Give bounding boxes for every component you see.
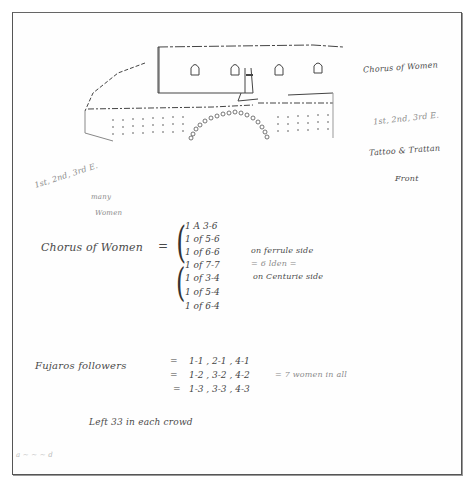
- sketch-label-front: Front: [395, 174, 419, 183]
- followers-eq: =: [173, 384, 181, 394]
- stage-sketch: [13, 13, 461, 213]
- chorus-heading: Chorus of Women: [41, 241, 143, 254]
- followers-heading: Fujaros followers: [35, 360, 126, 371]
- chorus-row: 1 of 6-6: [185, 247, 220, 257]
- chorus-row: 1 A 3-6: [185, 221, 217, 231]
- followers-note: = 7 women in all: [275, 370, 347, 379]
- followers-line: 1-1 , 2-1 , 4-1: [189, 356, 250, 366]
- chorus-row: 1 of 5-4: [185, 287, 220, 297]
- chorus-row: 1 of 3-4: [185, 273, 220, 283]
- followers-line: 1-3 , 3-3 , 4-3: [189, 384, 250, 394]
- chorus-row: 1 of 7-7: [185, 260, 220, 270]
- followers-eq: =: [170, 356, 178, 366]
- sketch-label-women: Women: [95, 209, 122, 217]
- scanned-page: Chorus of Women 1st, 2nd, 3rd E. Tattoo …: [12, 12, 462, 475]
- chorus-row: 1 of 6-4: [185, 301, 220, 311]
- faint-mark: a ~ ~ ~ d: [16, 451, 53, 459]
- followers-line: 1-2 , 3-2 , 4-2: [189, 370, 250, 380]
- chorus-note-centurie: on Centurie side: [253, 272, 323, 281]
- sketch-label-many: many: [91, 193, 111, 201]
- followers-eq: =: [170, 370, 178, 380]
- footer-note: Left 33 in each crowd: [89, 417, 193, 427]
- chorus-row: 1 of 5-6: [185, 234, 220, 244]
- chorus-equals: =: [158, 239, 168, 253]
- chorus-note-lden: = 6 lden =: [251, 259, 297, 268]
- chorus-note-ferrule: on ferrule side: [251, 246, 313, 255]
